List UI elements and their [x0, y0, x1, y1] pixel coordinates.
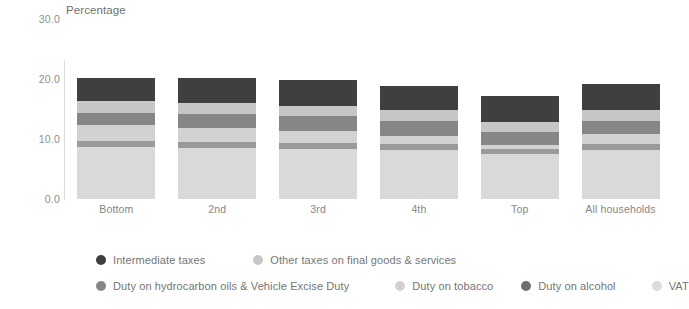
y-tick-30: 30.0: [20, 13, 60, 25]
x-axis-label: Bottom: [66, 203, 167, 215]
bar-segment[interactable]: [481, 96, 559, 122]
bar-stack: [178, 78, 256, 199]
bar-column[interactable]: [570, 0, 671, 199]
bar-segment[interactable]: [178, 148, 256, 199]
bar-stack: [582, 84, 660, 199]
bar-segment[interactable]: [279, 116, 357, 131]
bar-segment[interactable]: [279, 106, 357, 117]
bar-column[interactable]: [368, 0, 469, 199]
bar-segment[interactable]: [582, 134, 660, 144]
bar-segment[interactable]: [380, 86, 458, 111]
legend-row-2: Duty on hydrocarbon oils & Vehicle Excis…: [66, 274, 673, 298]
x-axis-label: Top: [469, 203, 570, 215]
bar-column[interactable]: [167, 0, 268, 199]
x-axis-tick-labels: Bottom2nd3rd4thTopAll households: [66, 203, 671, 215]
legend-item[interactable]: Other taxes on final goods & services: [253, 254, 456, 266]
chart-legend: Intermediate taxesOther taxes on final g…: [66, 248, 673, 298]
bar-stack: [77, 78, 155, 199]
bar-segment[interactable]: [77, 101, 155, 112]
bar-segment[interactable]: [380, 136, 458, 144]
bar-segment[interactable]: [380, 121, 458, 135]
bar-stack: [279, 80, 357, 199]
bar-segment[interactable]: [178, 103, 256, 114]
legend-row-1: Intermediate taxesOther taxes on final g…: [66, 248, 673, 272]
legend-swatch-circle-icon: [521, 281, 531, 291]
y-tick-20: 20.0: [20, 73, 60, 85]
bar-segment[interactable]: [178, 114, 256, 128]
y-axis-line: [64, 60, 65, 200]
legend-swatch-circle-icon: [652, 281, 662, 291]
y-tick-0: 0.0: [20, 193, 60, 205]
legend-swatch-circle-icon: [96, 255, 106, 265]
bar-segment[interactable]: [77, 125, 155, 141]
legend-item[interactable]: Duty on hydrocarbon oils & Vehicle Excis…: [96, 280, 349, 292]
bar-segment[interactable]: [481, 122, 559, 132]
bar-segment[interactable]: [582, 150, 660, 199]
bar-segment[interactable]: [279, 80, 357, 106]
legend-swatch-circle-icon: [96, 281, 106, 291]
bar-column[interactable]: [66, 0, 167, 199]
bar-segment[interactable]: [279, 149, 357, 199]
x-axis-label: All households: [570, 203, 671, 215]
bar-segment[interactable]: [380, 110, 458, 121]
legend-label: Other taxes on final goods & services: [270, 254, 456, 266]
bar-stack: [380, 86, 458, 199]
legend-swatch-circle-icon: [253, 255, 263, 265]
y-tick-10: 10.0: [20, 133, 60, 145]
legend-item[interactable]: Intermediate taxes: [96, 254, 205, 266]
bar-stack: [481, 96, 559, 199]
bar-segment[interactable]: [279, 131, 357, 142]
bar-segment[interactable]: [582, 110, 660, 121]
bar-segment[interactable]: [481, 154, 559, 199]
bar-segment[interactable]: [77, 113, 155, 126]
x-axis-label: 3rd: [268, 203, 369, 215]
bar-segment[interactable]: [380, 150, 458, 199]
legend-item[interactable]: VAT: [652, 280, 689, 292]
legend-label: Intermediate taxes: [113, 254, 205, 266]
legend-label: Duty on tobacco: [412, 280, 493, 292]
bar-segment[interactable]: [178, 128, 256, 142]
bar-segment[interactable]: [77, 147, 155, 199]
plot-area: Percentage 30.0 20.0 10.0 0.0 Bottom2nd3…: [0, 0, 681, 240]
bar-segment[interactable]: [582, 84, 660, 109]
y-axis-tick-labels: 30.0 20.0 10.0 0.0: [16, 0, 60, 240]
bar-column[interactable]: [469, 0, 570, 199]
bar-segment[interactable]: [582, 121, 660, 135]
x-axis-label: 4th: [368, 203, 469, 215]
legend-swatch-circle-icon: [395, 281, 405, 291]
bar-segment[interactable]: [178, 78, 256, 102]
x-axis-label: 2nd: [167, 203, 268, 215]
legend-label: Duty on alcohol: [538, 280, 615, 292]
bar-column[interactable]: [268, 0, 369, 199]
legend-item[interactable]: Duty on alcohol: [521, 280, 615, 292]
bars-container: [66, 0, 671, 199]
bar-segment[interactable]: [481, 132, 559, 145]
plot-inner: Bottom2nd3rd4thTopAll households: [66, 0, 671, 240]
legend-label: VAT: [669, 280, 689, 292]
legend-label: Duty on hydrocarbon oils & Vehicle Excis…: [113, 280, 349, 292]
legend-item[interactable]: Duty on tobacco: [395, 280, 493, 292]
bar-segment[interactable]: [77, 78, 155, 101]
